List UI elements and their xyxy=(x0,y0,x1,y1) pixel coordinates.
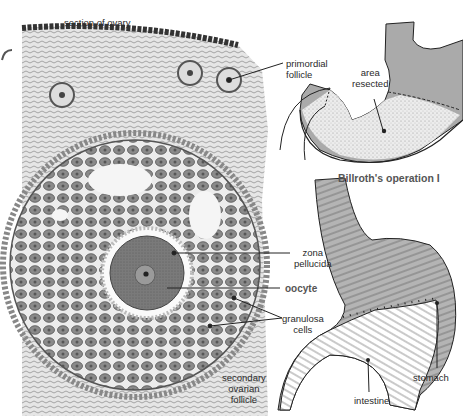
label-secondary-ovarian-follicle: secondary ovarian follicle xyxy=(222,372,266,405)
label-primordial-follicle: primordial follicle xyxy=(286,58,328,80)
label-intestine: intestine xyxy=(354,395,389,406)
caption-billroth-operation: Billroth's operation I xyxy=(338,172,440,184)
label-zona-pellucida: zona pellucida xyxy=(294,247,332,269)
illustration xyxy=(0,0,463,416)
label-area-resected: area resected xyxy=(352,67,388,89)
secondary-ovarian-follicle xyxy=(10,140,260,390)
ovary-section xyxy=(2,26,268,416)
label-stomach: stomach xyxy=(413,372,449,383)
label-oocyte: oocyte xyxy=(285,283,317,294)
stomach-resection-diagram xyxy=(280,22,463,163)
label-section-of-ovary: section of ovary xyxy=(64,17,131,28)
label-granulosa-cells: granulosa cells xyxy=(282,313,324,335)
